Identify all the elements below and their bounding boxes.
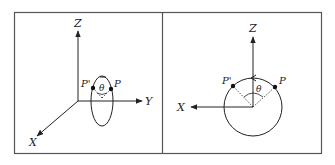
x-axis-label: X [28, 136, 38, 149]
p-label: P [113, 78, 121, 89]
p-label: P [278, 75, 286, 86]
point-p [109, 87, 113, 91]
z-axis-label: Z [73, 17, 82, 30]
angle-arc [97, 93, 107, 95]
x-axis-label: X [176, 101, 186, 114]
right-panel-front-view: Z X P' P θ [176, 22, 286, 136]
x-axis [37, 101, 78, 136]
axes [191, 37, 253, 107]
theta-label: θ [99, 83, 105, 93]
z-axis-label: Z [248, 22, 257, 35]
point-p [273, 85, 277, 89]
figure-frame [15, 13, 322, 154]
angle-radii [233, 86, 275, 107]
p-prime-label: P' [221, 75, 231, 86]
p-prime-label: P' [80, 78, 90, 89]
left-panel-3d-view: Z Y X P' P θ [28, 17, 154, 149]
point-p-prime [91, 86, 95, 90]
theta-label: θ [256, 84, 262, 94]
rotation-diagram: Z Y X P' P θ Z X [0, 0, 335, 165]
y-axis-label: Y [145, 95, 154, 108]
